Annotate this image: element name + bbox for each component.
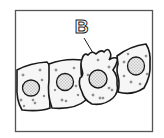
panel-label: B [75, 16, 89, 37]
nucleus [57, 74, 74, 91]
cell-1 [17, 62, 51, 111]
cell-3-with-projections [79, 50, 118, 105]
diagram-canvas: B [0, 0, 164, 138]
nucleus [89, 70, 107, 88]
nucleus [128, 57, 145, 75]
cell-diagram: B [0, 0, 164, 138]
nucleus [23, 80, 40, 96]
